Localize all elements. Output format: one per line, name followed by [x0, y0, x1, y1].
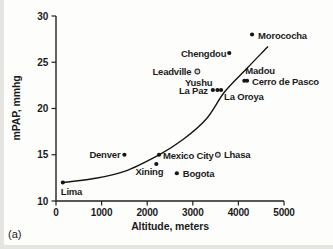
- data-point-la-paz: [211, 88, 215, 92]
- data-point-lhasa: [215, 152, 220, 157]
- axis-lines: [56, 16, 284, 201]
- x-tick-label: 0: [53, 207, 59, 218]
- data-point-denver: [122, 153, 126, 157]
- data-point-yushu: [215, 88, 219, 92]
- y-tick-label: 30: [37, 11, 48, 22]
- data-point-bogota: [175, 171, 179, 175]
- data-point-chengdou: [227, 51, 231, 55]
- point-label-morococha: Morococha: [258, 30, 308, 41]
- point-label-leadville: Leadville: [153, 66, 192, 77]
- figure-panel: 1015202530 010002000300040005000 LimaDen…: [0, 0, 333, 249]
- point-label-denver: Denver: [89, 149, 121, 160]
- point-label-xining: Xining: [135, 166, 163, 177]
- data-point-cerro-de-pasco: [245, 79, 249, 83]
- data-point-la-oroya: [219, 88, 223, 92]
- point-label-mexico-city: Mexico City: [163, 150, 215, 161]
- chart-canvas: 1015202530 010002000300040005000 LimaDen…: [0, 0, 333, 249]
- point-label-la-oroya: La Oroya: [224, 91, 264, 102]
- y-axis-ticks: 1015202530: [37, 11, 56, 207]
- page-edge-left: [0, 0, 4, 249]
- panel-label: (a): [8, 228, 21, 240]
- point-label-layer: LimaDenverXiningMexico CityBogotaLeadvil…: [61, 30, 320, 197]
- x-tick-label: 2000: [136, 207, 158, 218]
- point-label-lhasa: Lhasa: [224, 149, 251, 160]
- y-tick-label: 25: [37, 57, 48, 68]
- x-tick-label: 1000: [91, 207, 113, 218]
- x-tick-label: 5000: [273, 207, 295, 218]
- x-tick-label: 3000: [182, 207, 204, 218]
- y-tick-label: 20: [37, 103, 48, 114]
- point-label-chengdou: Chengdou: [181, 48, 227, 59]
- data-point-mexico-city: [157, 153, 161, 157]
- data-point-leadville: [195, 69, 200, 74]
- point-label-yushu: Yushu: [185, 77, 213, 88]
- point-label-bogota: Bogota: [183, 168, 215, 179]
- x-tick-label: 4000: [228, 207, 250, 218]
- y-tick-label: 10: [37, 196, 48, 207]
- y-axis-title: mPAP, mmhg: [10, 75, 22, 140]
- point-label-lima: Lima: [61, 186, 83, 197]
- y-tick-label: 15: [37, 149, 48, 160]
- data-point-morococha: [250, 32, 254, 36]
- point-label-cerro-de-pasco: Cerro de Pasco: [252, 76, 319, 87]
- x-axis-title: Altitude, meters: [131, 220, 209, 232]
- x-axis-ticks: 010002000300040005000: [53, 201, 295, 218]
- page-edge-bottom: [0, 245, 333, 249]
- data-point-lima: [61, 180, 65, 184]
- point-label-madou: Madou: [245, 65, 275, 76]
